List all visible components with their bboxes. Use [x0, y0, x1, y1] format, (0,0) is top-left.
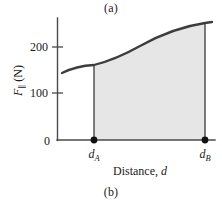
x-axis-title-prefix: Distance,	[113, 164, 158, 178]
x-tick-label-dA: dA	[88, 147, 100, 163]
dA-axis-dot	[91, 137, 98, 144]
force-distance-plot: 200 100 0 F∥ (N) dA dB Distance, d	[0, 0, 222, 204]
y-axis-title-units: (N)	[11, 65, 25, 82]
force-vs-distance-figure: (a) 200 100 0 F∥ (N) dA	[0, 0, 222, 204]
y-tick-label-100: 100	[30, 86, 48, 100]
y-tick-label-0: 0	[44, 134, 50, 148]
x-tick-label-dB: dB	[199, 147, 210, 163]
svg-text:dB: dB	[199, 147, 210, 163]
svg-text:dA: dA	[88, 147, 100, 163]
y-tick-label-200: 200	[30, 40, 48, 54]
svg-text:F∥ (N): F∥ (N)	[11, 65, 27, 97]
x-axis-title: Distance, d	[113, 164, 168, 178]
svg-text:Distance, d: Distance, d	[113, 164, 168, 178]
x-axis-title-variable: d	[161, 164, 168, 178]
dB-axis-dot	[202, 137, 209, 144]
x-tick-dB-subscript: B	[205, 153, 210, 163]
panel-label-b: (b)	[0, 185, 222, 200]
x-tick-dA-subscript: A	[93, 153, 100, 163]
y-axis-title: F∥ (N)	[11, 65, 27, 97]
